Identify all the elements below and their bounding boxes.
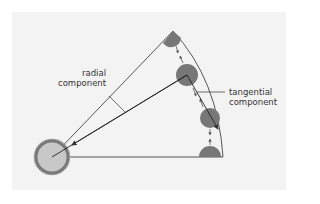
tangential-label-line2: component [229, 97, 277, 107]
tangential-component-label: tangential component [229, 87, 277, 107]
particles [163, 31, 221, 157]
interaction-arrows [176, 46, 210, 145]
radial-leader-line [109, 96, 125, 112]
radial-component-label: radial component [58, 68, 106, 88]
radial-label-line2: component [58, 78, 106, 88]
particle-lower [200, 108, 220, 128]
tangential-label-line1: tangential [229, 87, 277, 97]
particle-bottom-half [199, 146, 221, 157]
wedge-outline [52, 31, 223, 157]
radial-label-line1: radial [58, 68, 106, 78]
